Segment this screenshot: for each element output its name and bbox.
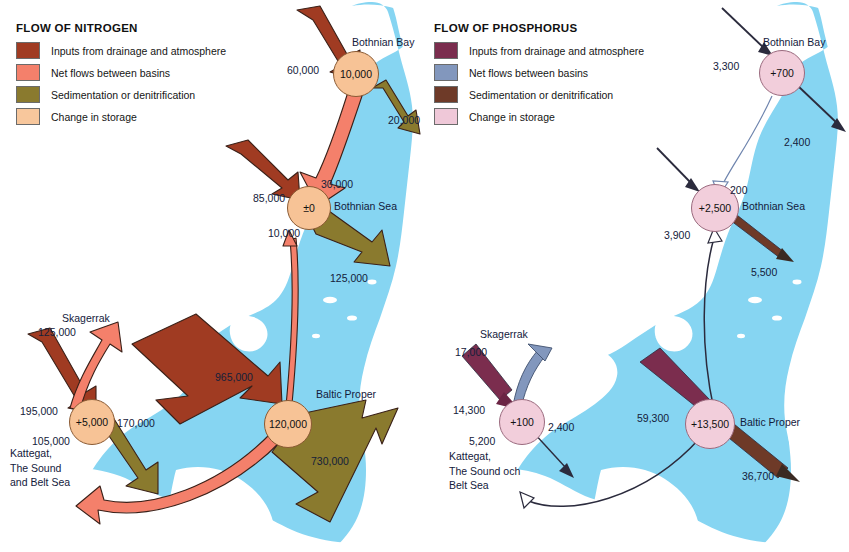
value-p-kt-sed: 2,400 <box>548 421 574 434</box>
node-n-kattegat[interactable]: +5,000 <box>69 399 115 445</box>
legend-swatch-n-netflows <box>16 64 40 81</box>
legend-label-p-sedimentation: Sedimentation or denitrification <box>469 89 613 101</box>
label-p-skagerrak: Skagerrak <box>480 328 528 341</box>
legend-swatch-p-sedimentation <box>434 86 458 103</box>
label-p-baltic-proper: Baltic Proper <box>740 416 800 429</box>
legend-nitrogen-title: FLOW OF NITROGEN <box>16 22 226 34</box>
value-n-bs-input: 85,000 <box>253 192 285 205</box>
legend-label-n-sedimentation: Sedimentation or denitrification <box>51 89 195 101</box>
figure-canvas: FLOW OF NITROGEN Inputs from drainage an… <box>0 0 849 552</box>
label-p-bothnian-bay: Bothnian Bay <box>763 36 825 49</box>
legend-row-n-sedimentation: Sedimentation or denitrification <box>12 85 226 104</box>
label-n-bothnian-bay: Bothnian Bay <box>352 36 414 49</box>
node-p-baltic-proper[interactable]: +13,500 <box>685 399 735 449</box>
value-n-bp-to-kt: 105,000 <box>32 435 70 448</box>
legend-swatch-p-inputs <box>434 42 458 59</box>
legend-label-n-storage: Change in storage <box>51 111 137 123</box>
legend-row-p-netflows: Net flows between basins <box>430 63 644 82</box>
value-p-bp-input: 59,300 <box>637 412 669 425</box>
label-p-kattegat: Kattegat, The Sound och Belt Sea <box>449 449 520 493</box>
value-n-bp-input: 965,000 <box>215 371 253 384</box>
value-p-bb-input: 3,300 <box>713 60 739 73</box>
value-n-bp-sed: 730,000 <box>311 455 349 468</box>
legend-nitrogen: FLOW OF NITROGEN Inputs from drainage an… <box>12 22 226 129</box>
legend-row-n-storage: Change in storage <box>12 107 226 126</box>
label-p-bothnian-sea: Bothnian Sea <box>742 200 805 213</box>
legend-row-n-inputs: Inputs from drainage and atmosphere <box>12 41 226 60</box>
node-n-bothnian-bay[interactable]: 10,000 <box>333 51 379 97</box>
legend-label-p-inputs: Inputs from drainage and atmosphere <box>469 45 644 57</box>
legend-row-n-netflows: Net flows between basins <box>12 63 226 82</box>
legend-phosphorus: FLOW OF PHOSPHORUS Inputs from drainage … <box>430 22 644 129</box>
node-p-bothnian-bay[interactable]: +700 <box>759 50 805 96</box>
legend-label-p-storage: Change in storage <box>469 111 555 123</box>
arrowhead-p-bp-to-kt <box>520 492 534 508</box>
value-n-bb-input: 60,000 <box>287 64 319 77</box>
legend-row-p-storage: Change in storage <box>430 107 644 126</box>
value-n-kt-to-skagerrak: 125,000 <box>38 326 76 339</box>
legend-swatch-p-netflows <box>434 64 458 81</box>
legend-label-n-netflows: Net flows between basins <box>51 67 170 79</box>
value-p-kt-to-skagerrak: 17,000 <box>455 346 487 359</box>
legend-row-p-sedimentation: Sedimentation or denitrification <box>430 85 644 104</box>
value-p-bb-to-bs: 200 <box>730 184 748 197</box>
value-n-bb-to-bs: 30,000 <box>321 178 353 191</box>
legend-swatch-n-storage <box>16 108 40 125</box>
value-p-bb-sed: 2,400 <box>784 136 810 149</box>
legend-swatch-n-sedimentation <box>16 86 40 103</box>
node-n-baltic-proper[interactable]: 120,000 <box>264 400 312 448</box>
node-p-kattegat[interactable]: +100 <box>499 399 545 445</box>
legend-phosphorus-title: FLOW OF PHOSPHORUS <box>434 22 644 34</box>
legend-label-n-inputs: Inputs from drainage and atmosphere <box>51 45 226 57</box>
value-p-kt-input: 14,300 <box>453 404 485 417</box>
node-n-bothnian-sea[interactable]: ±0 <box>287 186 331 230</box>
legend-label-p-netflows: Net flows between basins <box>469 67 588 79</box>
legend-swatch-p-storage <box>434 108 458 125</box>
legend-row-p-inputs: Inputs from drainage and atmosphere <box>430 41 644 60</box>
label-n-kattegat: Kattegat, The Sound and Belt Sea <box>10 446 70 490</box>
label-n-bothnian-sea: Bothnian Sea <box>334 200 397 213</box>
value-n-kt-input: 195,000 <box>20 405 58 418</box>
label-n-skagerrak: Skagerrak <box>62 312 110 325</box>
legend-swatch-n-inputs <box>16 42 40 59</box>
value-n-bb-sed: 20,000 <box>388 114 420 127</box>
value-p-bs-sed: 5,500 <box>751 266 777 279</box>
value-p-bs-input: 3,900 <box>664 229 690 242</box>
value-n-bp-to-bs: 10,000 <box>268 227 300 240</box>
value-n-bs-sed: 125,000 <box>330 272 368 285</box>
value-p-bp-to-kt: 5,200 <box>469 435 495 448</box>
value-p-bp-sed: 36,700 <box>742 470 774 483</box>
value-n-kt-sed: 170,000 <box>117 417 155 430</box>
label-n-baltic-proper: Baltic Proper <box>316 388 376 401</box>
